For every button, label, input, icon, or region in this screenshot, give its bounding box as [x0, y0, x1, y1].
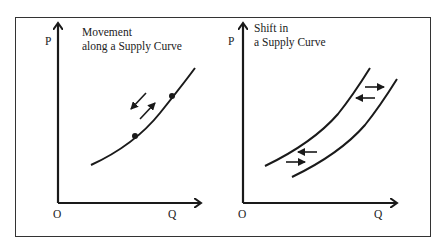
- panel-title-line2: along a Supply Curve: [82, 40, 182, 53]
- panel-title-line1: Shift in: [254, 22, 288, 34]
- arrow-down-left-icon: [131, 93, 146, 109]
- y-axis-label: P: [228, 35, 234, 47]
- supply-curve-diagrams: P O Q Movement along a Supply Curve P O …: [0, 0, 443, 250]
- arrow-up-right-icon: [140, 103, 155, 119]
- panel-shift-in-curve: P O Q Shift in a Supply Curve: [228, 22, 397, 220]
- origin-label: O: [53, 208, 61, 220]
- y-axis-label: P: [45, 35, 51, 47]
- equilibrium-point-lower: [132, 133, 138, 139]
- panel-movement-along-curve: P O Q Movement along a Supply Curve: [45, 24, 200, 220]
- panel-title-line1: Movement: [82, 26, 133, 38]
- equilibrium-point-upper: [169, 93, 175, 99]
- x-axis-label: Q: [374, 208, 383, 220]
- supply-curve-original: [265, 68, 370, 166]
- x-axis-label: Q: [168, 208, 177, 220]
- supply-curve-shifted: [292, 79, 397, 177]
- origin-label: O: [238, 208, 246, 220]
- panel-title-line2: a Supply Curve: [254, 36, 326, 49]
